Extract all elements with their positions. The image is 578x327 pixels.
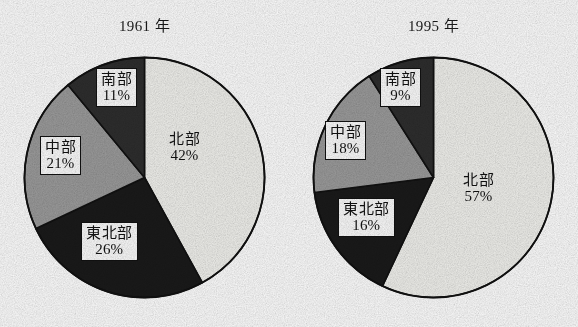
pie-1995: 南部 9% 中部 18% 東北部 16% 北部 57%: [311, 55, 556, 300]
pie-label-tohokubu-1961-name: 東北部: [86, 225, 133, 241]
pie-label-chubu-1961-pct: 21%: [45, 155, 76, 171]
pie-label-hokubu-1995-pct: 57%: [463, 188, 494, 204]
pie-label-tohokubu-1995: 東北部 16%: [338, 198, 395, 237]
pie-label-tohokubu-1961: 東北部 26%: [81, 222, 138, 261]
pie-label-hokubu-1995-name: 北部: [463, 172, 494, 188]
pie-label-hokubu-1961-name: 北部: [169, 131, 200, 147]
pie-label-hokubu-1961: 北部 42%: [165, 129, 204, 166]
pie-label-nanbu-1961-name: 南部: [101, 71, 132, 87]
pie-1961-svg: [22, 55, 267, 300]
pie-label-chubu-1995-name: 中部: [330, 124, 361, 140]
chart-title-1995: 1995 年: [289, 14, 578, 35]
chart-panel-1961: 1961 年 南部 11% 中部 21%: [0, 0, 289, 327]
pie-label-nanbu-1995-name: 南部: [385, 71, 416, 87]
pie-1961: 南部 11% 中部 21% 東北部 26% 北部 42%: [22, 55, 267, 300]
chart-title-1961: 1961 年: [0, 14, 289, 35]
pie-label-chubu-1961-name: 中部: [45, 139, 76, 155]
pie-label-tohokubu-1995-name: 東北部: [343, 201, 390, 217]
pie-label-tohokubu-1995-pct: 16%: [343, 217, 390, 233]
pie-label-nanbu-1995-pct: 9%: [385, 87, 416, 103]
pie-label-nanbu-1961: 南部 11%: [96, 68, 137, 107]
pie-chart-figure: 1961 年 南部 11% 中部 21%: [0, 0, 578, 327]
pie-label-chubu-1961: 中部 21%: [40, 136, 81, 175]
pie-label-hokubu-1961-pct: 42%: [169, 147, 200, 163]
pie-label-nanbu-1995: 南部 9%: [380, 68, 421, 107]
chart-panel-1995: 1995 年 南部 9% 中部 18%: [289, 0, 578, 327]
pie-label-tohokubu-1961-pct: 26%: [86, 241, 133, 257]
pie-label-nanbu-1961-pct: 11%: [101, 87, 132, 103]
pie-label-chubu-1995: 中部 18%: [325, 121, 366, 160]
pie-1995-svg: [311, 55, 556, 300]
pie-label-hokubu-1995: 北部 57%: [459, 170, 498, 207]
pie-label-chubu-1995-pct: 18%: [330, 140, 361, 156]
